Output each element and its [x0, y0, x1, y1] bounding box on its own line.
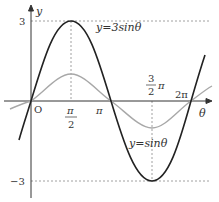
y3-tick-label: 3: [19, 16, 25, 27]
pi-half-den: 2: [68, 119, 74, 130]
two-pi-tick-label: 2π: [175, 89, 188, 100]
sine-graph: y θ O 3 −3 π 2 π 3 2 π 2π y=3sinθ y=sinθ: [0, 0, 219, 202]
three-half-pi: π: [157, 80, 165, 91]
yneg3-tick-label: −3: [10, 176, 25, 187]
pi-half-num: π: [66, 105, 74, 116]
three-half-den: 2: [148, 86, 154, 97]
y-axis-arrow-icon: [29, 5, 34, 11]
y-axis-label: y: [35, 5, 43, 18]
curve-sin-label: y=sinθ: [128, 137, 168, 150]
pi-tick-label: π: [95, 105, 103, 116]
origin-label: O: [34, 104, 42, 115]
three-half-num: 3: [148, 73, 154, 84]
x-axis-label: θ: [199, 107, 206, 120]
curve-3sin-label: y=3sinθ: [95, 21, 142, 34]
x-axis-arrow-icon: [206, 99, 212, 104]
